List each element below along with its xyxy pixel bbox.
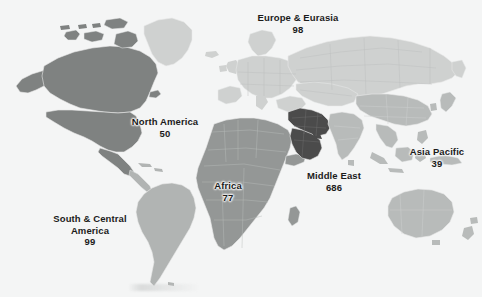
country-japan (440, 92, 456, 112)
label-name-south-central-line1: South & Central (34, 213, 146, 225)
map-label-middle-east: Middle East 686 (290, 170, 378, 193)
island-new-zealand (462, 226, 474, 240)
island-ireland (219, 65, 227, 72)
footer-artifact (128, 284, 200, 291)
label-value-middle-east: 686 (290, 182, 378, 194)
island-hispaniola (154, 168, 163, 172)
island-ellesmere (104, 18, 128, 29)
island-sri-lanka (348, 160, 354, 166)
island-arctic-small-a (92, 23, 101, 28)
island-banks (64, 30, 80, 40)
country-china (356, 94, 432, 126)
island-baffin (114, 31, 138, 48)
map-label-asia-pacific: Asia Pacific 39 (398, 146, 476, 169)
region-north-america (16, 18, 161, 176)
island-sumatra (370, 152, 388, 164)
label-value-europe-eurasia: 98 (243, 24, 353, 36)
country-korea (430, 103, 437, 111)
country-australia (388, 189, 454, 238)
subregion-southeast-asia (376, 124, 398, 148)
island-victoria (84, 31, 104, 42)
map-label-europe-eurasia: Europe & Eurasia 98 (243, 12, 353, 35)
label-value-asia-pacific: 39 (398, 158, 476, 170)
label-value-south-central-america: 99 (34, 236, 146, 248)
label-name-north-america: North America (118, 116, 212, 128)
island-philippines (417, 130, 428, 144)
map-label-south-central-america: South & Central America 99 (34, 213, 146, 248)
island-arctic-small-b (78, 24, 87, 29)
label-name-asia-pacific: Asia Pacific (398, 146, 476, 158)
map-label-north-america: North America 50 (118, 116, 212, 139)
island-madagascar (288, 206, 300, 226)
country-canada (42, 46, 158, 113)
subregion-central-america (129, 170, 152, 192)
map-label-africa: Africa 77 (193, 180, 263, 203)
country-india (328, 112, 364, 160)
region-middle-east (288, 108, 330, 160)
world-map-figure: Europe & Eurasia 98 North America 50 Asi… (0, 0, 482, 297)
label-name-europe-eurasia: Europe & Eurasia (243, 12, 353, 24)
island-new-zealand-north (470, 217, 478, 224)
island-cuba (138, 163, 152, 167)
label-value-africa: 77 (193, 192, 263, 204)
label-name-south-central-line2: America (34, 225, 146, 237)
island-newfoundland (149, 90, 161, 98)
island-arctic-small-c (60, 25, 70, 30)
subregion-iberia (218, 86, 242, 104)
label-name-middle-east: Middle East (290, 170, 378, 182)
label-value-north-america: 50 (118, 128, 212, 140)
label-name-africa: Africa (193, 180, 263, 192)
island-tasmania (432, 240, 440, 245)
island-iceland (205, 51, 219, 58)
